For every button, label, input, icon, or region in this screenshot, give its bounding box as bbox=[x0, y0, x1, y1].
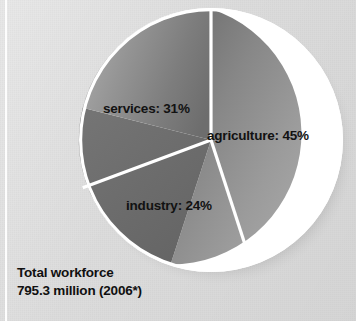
caption-line-total-value: 795.3 million (2006*) bbox=[17, 282, 142, 300]
chart-caption: Total workforce 795.3 million (2006*) bbox=[17, 264, 142, 300]
figure-canvas: agriculture: 45% services: 31% industry:… bbox=[0, 0, 356, 321]
pie-label-services: services: 31% bbox=[103, 101, 190, 116]
pie-label-industry: industry: 24% bbox=[126, 198, 212, 213]
pie-label-agriculture: agriculture: 45% bbox=[207, 128, 309, 143]
caption-line-total-workforce: Total workforce bbox=[17, 264, 142, 282]
